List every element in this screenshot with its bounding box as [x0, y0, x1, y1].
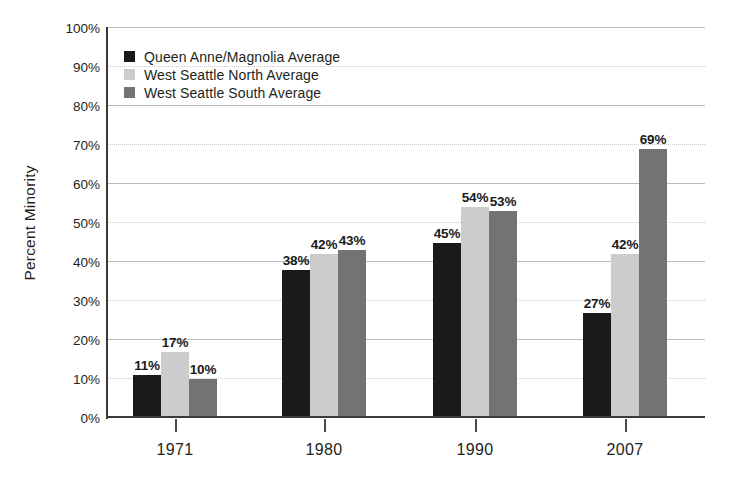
- bar-1980-series2[interactable]: 42%: [310, 254, 338, 418]
- x-tick-1971: [175, 419, 177, 432]
- x-tick-2007: [625, 419, 627, 432]
- y-tick-label-60pct: 60%: [52, 177, 100, 192]
- bar-2007-series2[interactable]: 42%: [611, 254, 639, 418]
- bar-2007-series1[interactable]: 27%: [583, 313, 611, 418]
- legend-label: Queen Anne/Magnolia Average: [144, 49, 340, 65]
- bar-value-label: 42%: [612, 237, 638, 252]
- bar-value-label: 10%: [190, 362, 216, 377]
- bar-2007-series3[interactable]: 69%: [639, 149, 667, 418]
- legend-item-1[interactable]: Queen Anne/Magnolia Average: [124, 48, 340, 65]
- y-tick-label-10pct: 10%: [52, 372, 100, 387]
- bar-value-label: 69%: [640, 132, 666, 147]
- bar-value-label: 53%: [490, 194, 516, 209]
- bar-1971-series3[interactable]: 10%: [189, 379, 217, 418]
- bar-1990-series3[interactable]: 53%: [489, 211, 517, 418]
- y-tick-label-50pct: 50%: [52, 216, 100, 231]
- legend-label: West Seattle South Average: [144, 85, 321, 101]
- bar-value-label: 54%: [462, 190, 488, 205]
- y-axis-tick-labels: 0%10%20%30%40%50%60%70%80%90%100%: [45, 28, 100, 418]
- y-axis-line: [106, 27, 108, 419]
- legend-swatch-icon: [124, 69, 135, 80]
- legend-swatch-icon: [124, 51, 135, 62]
- y-tick-label-40pct: 40%: [52, 255, 100, 270]
- bar-value-label: 42%: [311, 237, 337, 252]
- bar-value-label: 17%: [162, 335, 188, 350]
- bar-value-label: 45%: [434, 226, 460, 241]
- y-tick-label-70pct: 70%: [52, 138, 100, 153]
- y-tick-label-0pct: 0%: [52, 411, 100, 426]
- x-category-label-1971: 1971: [115, 441, 235, 459]
- y-tick-label-90pct: 90%: [52, 60, 100, 75]
- x-category-label-2007: 2007: [565, 441, 685, 459]
- bar-group-2007: 27%42%69%: [583, 28, 667, 418]
- legend-item-3[interactable]: West Seattle South Average: [124, 84, 340, 101]
- legend-swatch-icon: [124, 87, 135, 98]
- bar-value-label: 43%: [339, 233, 365, 248]
- y-tick-label-100pct: 100%: [52, 21, 100, 36]
- bar-1980-series1[interactable]: 38%: [282, 270, 310, 418]
- bar-1971-series1[interactable]: 11%: [133, 375, 161, 418]
- y-tick-label-30pct: 30%: [52, 294, 100, 309]
- bar-1980-series3[interactable]: 43%: [338, 250, 366, 418]
- bar-value-label: 38%: [283, 253, 309, 268]
- x-category-label-1980: 1980: [264, 441, 384, 459]
- bar-chart: Percent Minority 0%10%20%30%40%50%60%70%…: [0, 0, 732, 493]
- bar-value-label: 27%: [584, 296, 610, 311]
- y-axis-title: Percent Minority: [15, 28, 45, 418]
- legend-label: West Seattle North Average: [144, 67, 319, 83]
- chart-legend: Queen Anne/Magnolia AverageWest Seattle …: [124, 48, 340, 102]
- x-tick-1990: [475, 419, 477, 432]
- y-tick-label-80pct: 80%: [52, 99, 100, 114]
- legend-item-2[interactable]: West Seattle North Average: [124, 66, 340, 83]
- bar-1990-series2[interactable]: 54%: [461, 207, 489, 418]
- bar-value-label: 11%: [134, 358, 160, 373]
- x-category-label-1990: 1990: [415, 441, 535, 459]
- x-tick-1980: [324, 419, 326, 432]
- bar-1990-series1[interactable]: 45%: [433, 243, 461, 419]
- bar-group-1990: 45%54%53%: [433, 28, 517, 418]
- bar-1971-series2[interactable]: 17%: [161, 352, 189, 418]
- axis-baseline: [107, 416, 705, 418]
- y-tick-label-20pct: 20%: [52, 333, 100, 348]
